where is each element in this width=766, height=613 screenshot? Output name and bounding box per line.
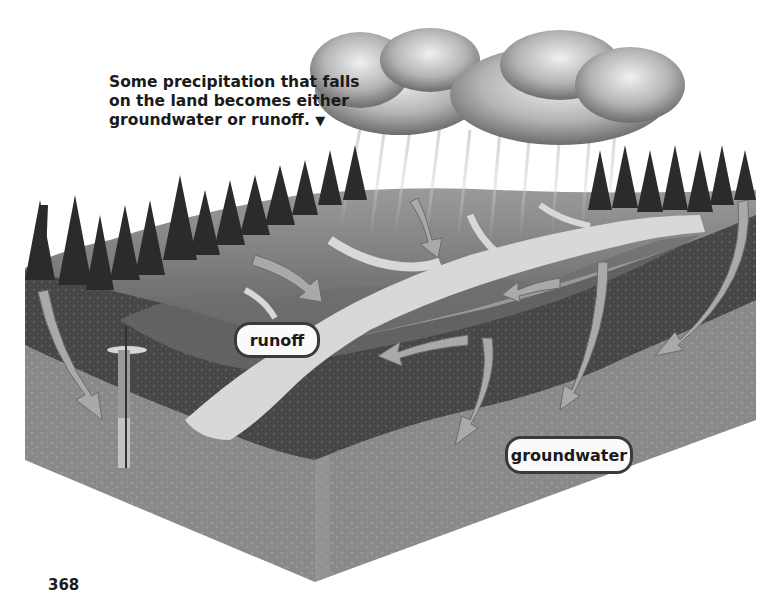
groundwater-label: groundwater (505, 436, 633, 474)
page-number: 368 (48, 576, 79, 594)
figure-caption: Some precipitation that falls on the lan… (109, 73, 369, 130)
runoff-label: runoff (234, 322, 320, 358)
caption-line: Some precipitation that falls (109, 73, 369, 92)
caption-line: on the land becomes either (109, 92, 369, 111)
caption-line: groundwater or runoff. ▼ (109, 111, 369, 130)
down-triangle-icon: ▼ (315, 113, 325, 128)
